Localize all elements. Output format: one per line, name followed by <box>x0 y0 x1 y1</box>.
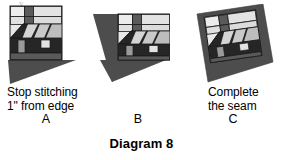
caption-c: Complete the seam <box>208 86 259 113</box>
figure-c-artwork <box>181 4 275 86</box>
diagram-page: y <box>0 0 283 160</box>
house-block-a <box>10 6 62 60</box>
figure-b-artwork <box>90 4 170 86</box>
house-block-c <box>204 10 262 63</box>
caption-a-line-1: Stop stitching <box>7 86 78 100</box>
diagram-title: Diagram 8 <box>0 136 283 151</box>
caption-c-line-1: Complete <box>208 86 259 100</box>
figure-a-artwork <box>8 4 82 86</box>
figure-b <box>90 4 170 86</box>
caption-c-line-2: the seam <box>208 100 259 114</box>
figures-row <box>0 0 283 86</box>
house-block-b <box>118 14 170 60</box>
caption-a-line-2: 1" from edge <box>7 100 78 114</box>
triangle-patch-a <box>8 60 76 84</box>
figure-c <box>181 4 275 86</box>
figure-letter-c: C <box>213 112 253 126</box>
triangle-patch-b-lower <box>100 60 166 82</box>
figure-a <box>8 4 82 86</box>
figure-letter-b: B <box>118 112 158 126</box>
figure-letter-a: A <box>26 112 66 126</box>
caption-a: Stop stitching 1" from edge <box>7 86 78 113</box>
